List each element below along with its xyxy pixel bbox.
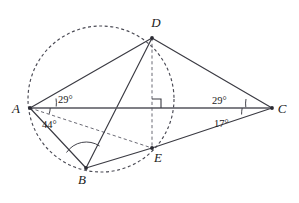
right-angle-icon bbox=[152, 99, 161, 108]
vertex-dot-d bbox=[150, 36, 154, 40]
angle-label-cae: 44° bbox=[42, 119, 57, 130]
vertex-dot-a bbox=[28, 106, 32, 110]
angle-label-ace: 17° bbox=[214, 118, 229, 129]
segment-be bbox=[86, 148, 152, 168]
vertex-dot-b bbox=[84, 166, 88, 170]
angle-arc-cae bbox=[49, 108, 50, 114]
point-label-c: C bbox=[278, 101, 287, 116]
figure-canvas: A B C D E 29° 44° 29° 17° bbox=[0, 0, 299, 203]
angle-label-dca: 29° bbox=[212, 95, 227, 106]
point-label-b: B bbox=[78, 172, 86, 187]
vertex-dot-c bbox=[270, 106, 274, 110]
geometry-figure: A B C D E 29° 44° 29° 17° bbox=[0, 0, 299, 203]
angle-arc-ace bbox=[242, 108, 243, 115]
point-label-d: D bbox=[150, 15, 161, 30]
point-label-a: A bbox=[11, 101, 20, 116]
angle-label-dac: 29° bbox=[58, 94, 73, 105]
segment-ec bbox=[152, 108, 272, 148]
point-label-e: E bbox=[153, 150, 162, 165]
